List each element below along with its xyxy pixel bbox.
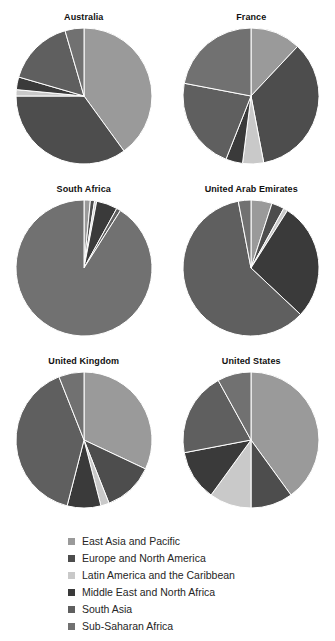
pie-south-africa xyxy=(14,198,154,338)
pie-svg xyxy=(14,26,154,166)
pie-united-kingdom xyxy=(14,370,154,510)
legend-label: East Asia and Pacific xyxy=(82,535,180,548)
pie-australia xyxy=(14,26,154,166)
pie-svg xyxy=(181,26,321,166)
pie-panel-united-arab-emirates: United Arab Emirates xyxy=(168,180,335,352)
pie-chart-figure: Australia France South Africa United Ara… xyxy=(0,0,335,641)
legend-item-europe-and-north-america: Europe and North America xyxy=(68,550,308,567)
pie-panel-united-kingdom: United Kingdom xyxy=(0,352,168,524)
pie-france xyxy=(181,26,321,166)
legend-label: Latin America and the Caribbean xyxy=(82,569,235,582)
pie-svg xyxy=(14,370,154,510)
legend-item-south-asia: South Asia xyxy=(68,601,308,618)
pie-united-states xyxy=(181,370,321,510)
legend-label: Middle East and North Africa xyxy=(82,586,215,599)
pie-title-south-africa: South Africa xyxy=(57,184,111,195)
pie-title-france: France xyxy=(236,12,266,23)
pie-panel-grid: Australia France South Africa United Ara… xyxy=(0,8,335,524)
pie-title-australia: Australia xyxy=(64,12,103,23)
pie-panel-south-africa: South Africa xyxy=(0,180,168,352)
pie-svg xyxy=(181,198,321,338)
legend-swatch-icon xyxy=(68,538,75,545)
legend-swatch-icon xyxy=(68,606,75,613)
legend-item-sub-saharan-africa: Sub-Saharan Africa xyxy=(68,618,308,635)
pie-united-arab-emirates xyxy=(181,198,321,338)
pie-svg xyxy=(14,198,154,338)
legend-label: Sub-Saharan Africa xyxy=(82,620,173,633)
legend-swatch-icon xyxy=(68,555,75,562)
legend-swatch-icon xyxy=(68,572,75,579)
pie-panel-united-states: United States xyxy=(168,352,335,524)
pie-panel-france: France xyxy=(168,8,335,180)
pie-svg xyxy=(181,370,321,510)
pie-title-united-kingdom: United Kingdom xyxy=(48,356,119,367)
pie-panel-australia: Australia xyxy=(0,8,168,180)
legend-item-latin-america-and-the-caribbean: Latin America and the Caribbean xyxy=(68,567,308,584)
legend-item-middle-east-and-north-africa: Middle East and North Africa xyxy=(68,584,308,601)
pie-title-united-arab-emirates: United Arab Emirates xyxy=(205,184,298,195)
legend-label: Europe and North America xyxy=(82,552,206,565)
legend-swatch-icon xyxy=(68,589,75,596)
chart-legend: East Asia and Pacific Europe and North A… xyxy=(68,533,308,635)
legend-item-east-asia-and-pacific: East Asia and Pacific xyxy=(68,533,308,550)
legend-label: South Asia xyxy=(82,603,132,616)
pie-slice xyxy=(16,200,152,336)
pie-title-united-states: United States xyxy=(222,356,281,367)
legend-swatch-icon xyxy=(68,623,75,630)
